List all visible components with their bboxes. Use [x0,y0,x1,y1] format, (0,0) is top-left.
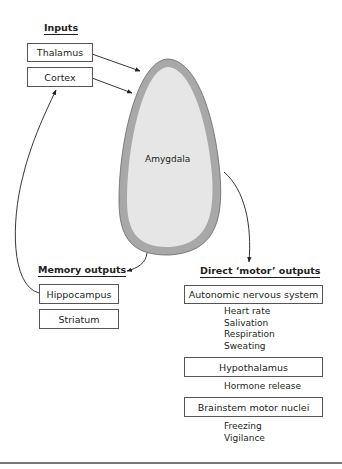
motor-outputs-header: Direct ‘motor’ outputs [200,265,320,278]
hippocampus-box: Hippocampus [39,284,119,304]
cortex-arrow [92,78,132,93]
amygdala-label: Amygdala [145,154,190,164]
autonomic-nervous-system-box: Autonomic nervous system [184,285,323,304]
cortex-box: Cortex [27,67,93,87]
amygdala-to-memory-arrow [127,253,147,271]
brainstem-motor-nuclei-box: Brainstem motor nuclei [184,397,323,417]
effect-respiration: Respiration [224,329,275,341]
autonomic-effects-list: Heart rate Salivation Respiration Sweati… [224,306,275,352]
effect-hormone-release: Hormone release [224,381,301,393]
inputs-header: Inputs [44,22,78,35]
hypothalamus-effects-list: Hormone release [224,381,301,393]
effect-heart-rate: Heart rate [224,306,275,318]
striatum-box: Striatum [39,309,119,329]
effect-vigilance: Vigilance [224,433,265,445]
effect-freezing: Freezing [224,421,265,433]
amygdala-to-motor-arrow [224,172,250,262]
brainstem-effects-list: Freezing Vigilance [224,421,265,444]
thalamus-arrow [92,54,140,71]
effect-sweating: Sweating [224,341,275,353]
memory-outputs-header: Memory outputs [38,264,126,277]
hypothalamus-box: Hypothalamus [184,357,323,377]
hippocampus-to-cortex-arrow [15,90,56,293]
bottom-divider [0,462,342,464]
effect-salivation: Salivation [224,318,275,330]
thalamus-box: Thalamus [27,43,93,62]
